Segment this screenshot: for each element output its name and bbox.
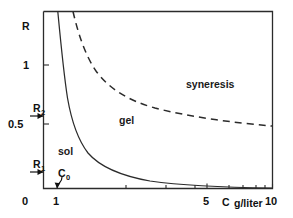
y-axis-title: R: [22, 20, 30, 32]
region-label-syneresis: syneresis: [186, 78, 235, 90]
x-tick-label-1: 1: [53, 195, 59, 207]
r1-label-sub: 1: [41, 164, 45, 173]
y-tick-label-1: 1: [23, 59, 29, 71]
c0-label-base: C: [58, 167, 66, 179]
chart-figure: R 1 0.5 0 1 5 10 C g/liter sol gel syner…: [0, 0, 293, 218]
curve-sol-gel-boundary: [58, 12, 272, 189]
region-label-gel: gel: [119, 114, 134, 126]
annotation-c0: C 0: [55, 167, 71, 189]
plot-frame: [44, 12, 273, 189]
r2-label-sub: 2: [41, 108, 45, 117]
x-tick-label-10: 10: [265, 195, 277, 207]
phase-diagram-plot: R 1 0.5 0 1 5 10 C g/liter sol gel syner…: [0, 0, 293, 218]
region-label-sol: sol: [58, 145, 73, 157]
r2-label-base: R: [33, 102, 41, 114]
r1-label-base: R: [33, 158, 41, 170]
x-tick-label-5: 5: [203, 195, 209, 207]
x-axis-title-symbol: C: [222, 196, 230, 208]
x-axis-title-unit: g/liter: [234, 197, 263, 209]
y-tick-label-0: 0: [22, 195, 28, 207]
y-tick-label-half: 0.5: [8, 118, 23, 130]
c0-arrow-head-icon: [55, 183, 61, 189]
c0-label-sub: 0: [66, 173, 70, 182]
curve-gel-syneresis-boundary: [73, 12, 272, 127]
